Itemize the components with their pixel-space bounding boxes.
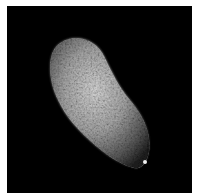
seed-object (50, 38, 150, 168)
seed-tip-highlight (143, 160, 147, 164)
seed-image (0, 0, 198, 196)
